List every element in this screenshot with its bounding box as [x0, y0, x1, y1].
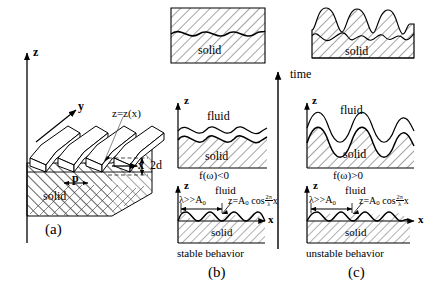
panel-a-z-axis-label: z: [33, 46, 38, 58]
figure-root: [0, 0, 445, 289]
equation-subscript: 0: [376, 199, 379, 206]
panel-b-profile-equation: z=A0 cos2πλx: [228, 194, 278, 208]
equation-subscript: 0: [245, 199, 248, 206]
panel-b-bottom-solid-label: solid: [211, 227, 232, 238]
much-greater-symbol: >>: [184, 194, 195, 205]
two-pi-over-lambda-fraction: 2πλ: [396, 194, 404, 208]
panel-b-behavior-label: stable behavior: [177, 248, 244, 259]
panel-b-top-solid-label: solid: [198, 44, 221, 56]
panel-c-middle-condition-label: f(ω)>0: [333, 170, 363, 181]
amplitude-subscript: 0: [332, 199, 335, 206]
panel-c-middle-fluid-label: fluid: [340, 104, 363, 116]
z-equals-amplitude: z=A: [359, 195, 376, 206]
panel-a-pitch-label: p: [72, 172, 79, 184]
panel-a-surface-equation-label: z=z(x): [112, 108, 141, 119]
panel-a-depth-label: 2d: [150, 159, 162, 171]
two-pi-over-lambda-fraction: 2πλ: [265, 194, 273, 208]
panel-b-wavelength-condition: λ>>A0: [179, 195, 206, 206]
panel-c-bottom-x-label: x: [418, 214, 424, 225]
x-variable: x: [273, 195, 278, 206]
much-greater-symbol: >>: [314, 194, 325, 205]
cosine-symbol: cos: [251, 195, 264, 206]
panel-c-middle-solid-label: solid: [343, 148, 366, 160]
fraction-denominator: λ: [265, 201, 273, 207]
panel-c-behavior-label: unstable behavior: [306, 248, 384, 259]
fraction-denominator: λ: [396, 201, 404, 207]
panel-c-bottom-z-label: z: [313, 180, 318, 191]
amplitude-subscript: 0: [202, 199, 205, 206]
panel-a-caption: (a): [45, 222, 62, 237]
panel-b-bottom-z-label: z: [184, 180, 189, 191]
panel-c-top-solid-label: solid: [345, 45, 368, 57]
panel-c-middle-z-label: z: [312, 95, 317, 106]
panel-b-middle-solid-label: solid: [205, 150, 228, 162]
panel-c-bottom-solid-label: solid: [345, 227, 366, 238]
panel-a-x-axis-label: x: [138, 159, 144, 171]
panel-c-caption: (c): [348, 265, 365, 280]
cosine-symbol: cos: [382, 195, 395, 206]
x-variable: x: [404, 195, 409, 206]
panel-b-middle-fluid-label: fluid: [207, 110, 230, 122]
z-equals-amplitude: z=A: [228, 195, 245, 206]
panel-b-caption: (b): [208, 265, 226, 280]
panel-c-profile-equation: z=A0 cos2πλx: [359, 194, 409, 208]
panel-a-y-axis-label: y: [78, 100, 84, 112]
panel-a-solid-label: solid: [43, 190, 66, 202]
panel-b-middle-z-label: z: [184, 95, 189, 106]
panel-b-bottom-x-label: x: [268, 214, 274, 225]
panel-c-wavelength-condition: λ>>A0: [309, 195, 336, 206]
panel-b-middle-condition-label: f(ω)<0: [199, 170, 229, 181]
time-label: time: [290, 68, 311, 80]
